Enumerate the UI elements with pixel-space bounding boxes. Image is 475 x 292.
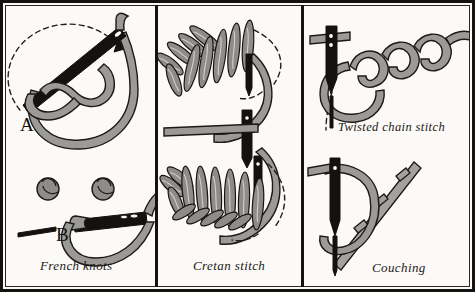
twisted-loop-chain xyxy=(350,51,388,87)
needle-guide-line-twisted xyxy=(330,96,333,128)
step-marker-b-french: B xyxy=(56,224,69,246)
panel-divider-1 xyxy=(155,5,158,287)
panel-right-column xyxy=(304,6,469,286)
panel-french-knots: A B xyxy=(6,6,155,286)
thread-tail-b xyxy=(144,192,155,216)
panel-cretan-stitch: A B xyxy=(158,6,301,286)
short-stitch-mark xyxy=(18,227,56,237)
french-knots-illustration xyxy=(6,6,155,286)
panel-divider-2 xyxy=(301,5,304,287)
feathered-stitch-row-b xyxy=(158,164,265,233)
thread-tail-twisted-right xyxy=(446,31,469,45)
needle-eye-lower xyxy=(245,116,249,120)
cretan-stitch-illustration xyxy=(158,6,301,286)
twisted-chain-and-couching-illustration xyxy=(304,6,469,286)
needle-eye-twisted-2 xyxy=(329,43,333,47)
thread-tail xyxy=(116,13,128,30)
needle-eye-b2 xyxy=(121,215,128,219)
twisted-chain-stitch-group xyxy=(310,26,469,130)
feathered-stitch-row-a xyxy=(158,20,255,98)
couching-group xyxy=(308,158,421,276)
needle-upper xyxy=(246,54,252,96)
caption-french-knots: French knots xyxy=(40,258,113,274)
needle-eye-twisted xyxy=(329,34,333,38)
step-marker-a-french: A xyxy=(20,114,34,136)
finished-knot-1 xyxy=(37,178,59,200)
needle-eye-couching xyxy=(333,166,337,170)
needle-eye-b xyxy=(130,214,138,218)
caption-couching: Couching xyxy=(372,260,426,276)
caption-cretan-stitch: Cretan stitch xyxy=(193,258,265,274)
caption-twisted-chain-stitch: Twisted chain stitch xyxy=(338,120,445,135)
needle-eye-b-cretan xyxy=(256,162,260,166)
needle-tip-couching xyxy=(333,236,337,276)
finished-knot-2 xyxy=(92,178,114,200)
working-loop-couching xyxy=(320,164,379,254)
twisted-loop-3 xyxy=(414,34,451,71)
embroidery-stitch-plate: A B xyxy=(0,0,475,292)
